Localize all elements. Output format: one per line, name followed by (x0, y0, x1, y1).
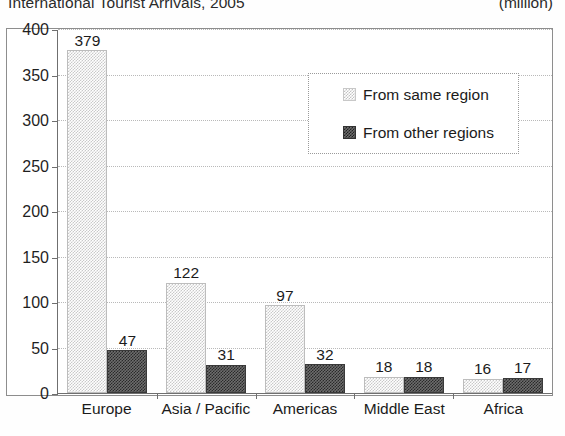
category-label: Africa (454, 400, 553, 418)
bar[interactable]: 32 (305, 364, 345, 393)
bar-value-label: 122 (173, 265, 199, 281)
x-axis-tick-mark (256, 393, 257, 399)
bar[interactable]: 18 (404, 377, 444, 393)
bar-value-label: 97 (276, 288, 293, 304)
chart-legend: From same regionFrom other regions (308, 73, 519, 154)
legend-item-label: From same region (363, 87, 489, 103)
legend-item[interactable]: From same region (343, 87, 518, 103)
bar-value-label: 32 (316, 347, 333, 363)
bar[interactable]: 122 (166, 283, 206, 393)
bar-value-label: 18 (375, 359, 392, 375)
x-axis-tick-mark (354, 393, 355, 399)
bar[interactable]: 31 (206, 365, 246, 393)
chart-header: International Tourist Arrivals, 2005 (mi… (0, 0, 565, 20)
bar-value-label: 379 (74, 33, 100, 49)
bar-pair: 37947 (58, 31, 157, 393)
bar[interactable]: 16 (463, 379, 503, 393)
bar-value-label: 16 (474, 361, 491, 377)
gridline: 400 (58, 29, 552, 30)
bar-group: 12231 (157, 31, 256, 393)
bar[interactable]: 47 (107, 350, 147, 393)
bar[interactable]: 379 (67, 50, 107, 393)
bar-pair: 12231 (157, 31, 256, 393)
bar-value-label: 17 (514, 360, 531, 376)
chart-screenshot: International Tourist Arrivals, 2005 (mi… (0, 0, 565, 436)
bar-value-label: 31 (218, 347, 235, 363)
light-checker-swatch-icon (343, 88, 356, 101)
category-label: Asia / Pacific (156, 400, 255, 418)
bar[interactable]: 17 (503, 378, 543, 393)
bar-value-label: 18 (415, 359, 432, 375)
unit-label: (million) (499, 0, 553, 12)
bar-value-label: 47 (119, 333, 136, 349)
dark-checker-swatch-icon (343, 126, 356, 139)
bar[interactable]: 97 (265, 305, 305, 393)
legend-item[interactable]: From other regions (343, 125, 518, 141)
legend-item-label: From other regions (363, 125, 494, 141)
category-label: Americas (255, 400, 354, 418)
page-title: International Tourist Arrivals, 2005 (8, 0, 245, 12)
bar[interactable]: 18 (364, 377, 404, 393)
bar-group: 37947 (58, 31, 157, 393)
x-axis-tick-mark (157, 393, 158, 399)
x-axis-tick-mark (453, 393, 454, 399)
y-axis-tick-mark (52, 394, 58, 395)
axis-baseline: 0 (58, 393, 552, 394)
chart-frame: 050100150200250300350400 379471223197321… (6, 28, 553, 396)
category-label: Middle East (355, 400, 454, 418)
category-axis-labels: EuropeAsia / PacificAmericasMiddle EastA… (57, 400, 553, 418)
category-label: Europe (57, 400, 156, 418)
